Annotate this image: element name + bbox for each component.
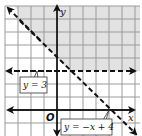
shaded-solution-region-top-left xyxy=(14,6,18,10)
y-axis-label: y xyxy=(59,6,66,17)
x-axis-label: x xyxy=(128,112,134,123)
origin-label: O xyxy=(46,112,55,123)
label-y3-callout: y = 3 xyxy=(20,71,47,93)
label-diag-callout: y = −x + 4 xyxy=(61,110,114,135)
label-y3-text: y = 3 xyxy=(22,80,47,90)
inequality-graph: y x O y = 3 y = −x + 4 xyxy=(0,0,142,136)
shaded-solution-region xyxy=(5,6,140,71)
label-diag-text: y = −x + 4 xyxy=(63,122,114,132)
